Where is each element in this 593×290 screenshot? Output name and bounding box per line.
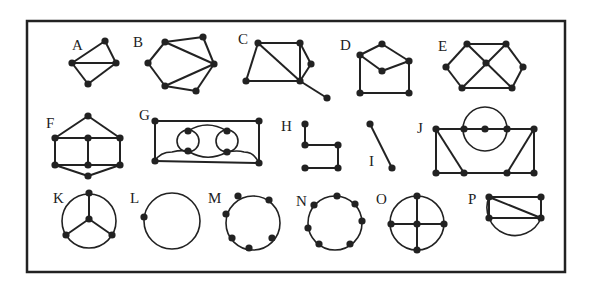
edge [382, 61, 409, 71]
vertex [242, 77, 249, 84]
vertex [84, 161, 91, 168]
graph-label: B [133, 34, 143, 50]
edge [55, 165, 88, 176]
graph-p: P [468, 191, 545, 236]
edge [446, 44, 467, 67]
graph-label: G [139, 107, 150, 123]
edge [467, 44, 512, 88]
vertex [405, 89, 412, 96]
vertex [405, 57, 412, 64]
graph-diagram: ABCDEFGHIJKLMNOP [0, 0, 593, 290]
graph-label: K [53, 190, 64, 206]
graph-i: I [366, 120, 395, 171]
vertex [530, 169, 537, 176]
edge [446, 67, 462, 88]
vertex [112, 59, 119, 66]
vertex [485, 214, 492, 221]
vertex [304, 224, 311, 231]
vertex [51, 161, 58, 168]
vertex [151, 157, 158, 164]
graph-label: H [281, 118, 292, 134]
vertex [519, 63, 526, 70]
vertex [301, 141, 308, 148]
vertex [413, 246, 420, 253]
edge [360, 44, 382, 55]
edge [88, 165, 120, 176]
graph-label: C [238, 31, 248, 47]
edge [155, 161, 259, 163]
vertex [315, 240, 322, 247]
vertex [234, 192, 241, 199]
graph-j: J [417, 107, 538, 177]
vertex [460, 169, 467, 176]
vertex [503, 169, 510, 176]
vertex [151, 117, 158, 124]
curved-edge [155, 151, 188, 161]
vertex [346, 240, 353, 247]
vertex [161, 38, 168, 45]
graph-o: O [376, 191, 448, 254]
graph-n: N [296, 192, 366, 250]
vertex [432, 169, 439, 176]
vertex [351, 200, 358, 207]
vertex [245, 244, 252, 251]
vertex [51, 134, 58, 141]
edge [105, 41, 116, 63]
vertex [460, 125, 467, 132]
vertex [254, 39, 261, 46]
vertex [184, 147, 191, 154]
graph-label: D [340, 37, 351, 53]
vertex [463, 40, 470, 47]
edge [89, 219, 112, 235]
vertex [432, 125, 439, 132]
edge [360, 55, 382, 71]
vertex [84, 80, 91, 87]
edge [165, 37, 203, 42]
vertex [508, 84, 515, 91]
edge [148, 42, 165, 63]
graph-k: K [53, 189, 116, 248]
edge [165, 86, 196, 91]
vertex [378, 40, 385, 47]
graph-a: A [68, 37, 119, 88]
graph-label: N [296, 193, 307, 209]
vertex [323, 94, 330, 101]
vertex [458, 84, 465, 91]
vertex [84, 172, 91, 179]
vertex [85, 215, 92, 222]
vertex [108, 231, 115, 238]
graph-collection: ABCDEFGHIJKLMNOP [46, 31, 545, 254]
edge [55, 116, 88, 138]
graph-label: E [438, 38, 447, 54]
circle-edge [144, 193, 200, 249]
edge [462, 44, 506, 88]
edge [258, 43, 300, 81]
vertex [334, 164, 341, 171]
vertex [222, 210, 229, 217]
edge [148, 63, 165, 86]
vertex [356, 51, 363, 58]
vertex [530, 125, 537, 132]
graph-label: F [46, 115, 54, 131]
graph-label: O [376, 191, 387, 207]
vertex [537, 193, 544, 200]
graph-label: P [468, 191, 476, 207]
vertex [84, 112, 91, 119]
vertex [413, 192, 420, 199]
vertex [116, 161, 123, 168]
vertex [184, 127, 191, 134]
vertex [192, 87, 199, 94]
edge [66, 219, 89, 235]
vertex [387, 220, 394, 227]
graph-l: L [130, 190, 200, 249]
vertex [116, 134, 123, 141]
graph-f: F [46, 112, 124, 179]
vertex [296, 39, 303, 46]
vertex [255, 117, 262, 124]
graph-h: H [281, 118, 342, 172]
edge [72, 63, 88, 84]
edge [88, 63, 116, 84]
edge [489, 197, 541, 218]
curved-edge [188, 125, 227, 131]
curved-edge [487, 197, 541, 236]
